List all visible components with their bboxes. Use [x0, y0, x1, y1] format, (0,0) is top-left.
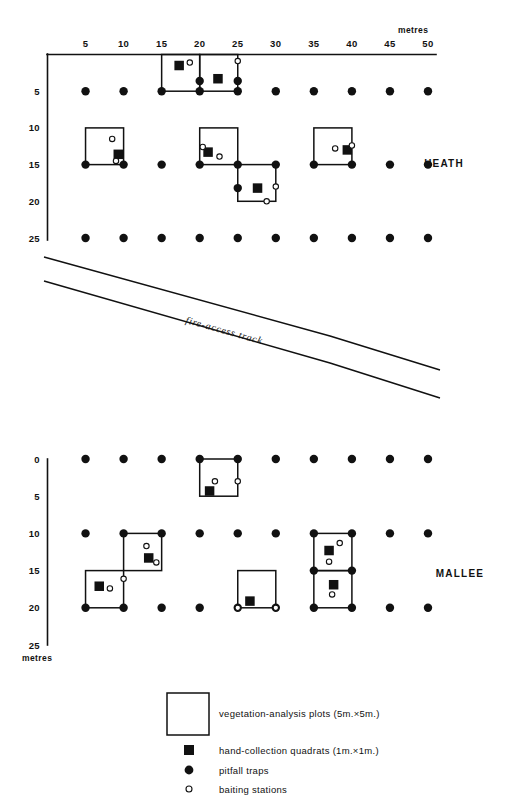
- pitfall-trap: [157, 604, 165, 612]
- baiting-station: [212, 479, 217, 484]
- heath-y-tick-20: 20: [29, 196, 40, 207]
- baiting-station: [349, 143, 354, 148]
- heath-y-tick-25: 25: [29, 233, 41, 244]
- vegetation-analysis-plot: [162, 55, 200, 92]
- heath-site-panel: 5101520253035404550 metres 510152025 HEA…: [29, 25, 464, 244]
- pitfall-trap: [272, 87, 280, 95]
- hand-collection-quadrat: [205, 486, 215, 496]
- legend-label-vegetation-plots: vegetation-analysis plots (5m.×5m.): [219, 708, 380, 719]
- track-label-text: fire-access track: [184, 314, 264, 346]
- baiting-station: [264, 199, 269, 204]
- pitfall-trap: [234, 234, 242, 242]
- baiting-station: [187, 60, 192, 65]
- pitfall-trap: [386, 160, 394, 168]
- pitfall-trap: [386, 529, 394, 537]
- pitfall-trap: [310, 455, 318, 463]
- pitfall-trap: [310, 87, 318, 95]
- x-axis-tick-30: 30: [270, 38, 281, 49]
- pitfall-trap: [310, 604, 318, 612]
- pitfall-trap: [157, 160, 165, 168]
- mallee-y-tick-0: 0: [34, 454, 40, 465]
- legend-baiting-station-swatch: [186, 786, 192, 792]
- baiting-station: [235, 479, 240, 484]
- x-axis-tick-35: 35: [308, 38, 320, 49]
- figure-root: 5101520253035404550 metres 510152025 HEA…: [0, 0, 508, 805]
- pitfall-trap: [310, 529, 318, 537]
- pitfall-trap: [310, 234, 318, 242]
- legend-vegetation-plot-swatch: [167, 693, 209, 735]
- fire-access-track: fire-access track: [44, 257, 440, 398]
- mallee-baiting-stations: [107, 479, 342, 611]
- pitfall-trap: [310, 566, 318, 574]
- baiting-station: [273, 184, 278, 189]
- baiting-station: [337, 540, 342, 545]
- hand-collection-quadrat: [144, 553, 154, 563]
- legend-label-pitfall-traps: pitfall traps: [219, 765, 269, 776]
- heath-hand-collection-quadrats: [114, 61, 353, 193]
- x-axis-tick-5: 5: [83, 38, 89, 49]
- hand-collection-quadrat: [174, 61, 184, 70]
- baiting-station: [121, 576, 126, 581]
- mallee-y-tick-15: 15: [29, 565, 41, 576]
- baiting-station: [332, 146, 337, 151]
- pitfall-trap: [157, 455, 165, 463]
- heath-y-tick-15: 15: [29, 159, 41, 170]
- vegetation-analysis-plot: [86, 571, 124, 608]
- pitfall-trap: [424, 87, 432, 95]
- x-axis-tick-50: 50: [422, 38, 433, 49]
- pitfall-trap: [157, 234, 165, 242]
- pitfall-trap: [348, 87, 356, 95]
- pitfall-trap: [234, 455, 242, 463]
- pitfall-trap: [234, 160, 242, 168]
- pitfall-trap: [272, 455, 280, 463]
- pitfall-trap: [81, 529, 89, 537]
- pitfall-trap: [196, 455, 204, 463]
- pitfall-trap: [81, 87, 89, 95]
- pitfall-trap: [81, 604, 89, 612]
- baiting-station: [154, 560, 159, 565]
- pitfall-trap: [234, 87, 242, 95]
- pitfall-trap: [196, 160, 204, 168]
- baiting-station: [144, 543, 149, 548]
- x-axis-tick-10: 10: [118, 38, 129, 49]
- baiting-station: [113, 158, 118, 163]
- mallee-site-label: MALLEE: [436, 568, 484, 579]
- x-axis-tick-15: 15: [156, 38, 168, 49]
- pitfall-trap: [272, 160, 280, 168]
- pitfall-trap: [348, 604, 356, 612]
- baiting-station: [217, 154, 222, 159]
- mallee-y-tick-10: 10: [29, 528, 40, 539]
- x-axis-tick-20: 20: [194, 38, 205, 49]
- pitfall-trap: [119, 529, 127, 537]
- x-axis-tick-40: 40: [346, 38, 357, 49]
- heath-pitfall-traps: [81, 77, 432, 242]
- hand-collection-quadrat: [245, 596, 255, 606]
- hand-collection-quadrat: [94, 581, 104, 591]
- pitfall-trap: [234, 529, 242, 537]
- baiting-station: [200, 144, 205, 149]
- pitfall-trap: [81, 234, 89, 242]
- heath-units-label: metres: [398, 25, 428, 35]
- pitfall-trap: [119, 455, 127, 463]
- pitfall-trap: [424, 604, 432, 612]
- baiting-station: [273, 605, 278, 610]
- pitfall-trap: [386, 455, 394, 463]
- hand-collection-quadrat: [114, 150, 124, 160]
- pitfall-trap: [386, 87, 394, 95]
- pitfall-trap: [348, 160, 356, 168]
- pitfall-trap: [272, 234, 280, 242]
- baiting-station: [235, 605, 240, 610]
- mallee-y-axis-tick-labels: 0510152025: [29, 454, 41, 651]
- pitfall-trap: [119, 604, 127, 612]
- pitfall-trap: [424, 234, 432, 242]
- mallee-y-tick-20: 20: [29, 602, 40, 613]
- legend-label-hand-collection-quadrats: hand-collection quadrats (1m.×1m.): [219, 745, 379, 756]
- legend-hand-collection-swatch: [184, 745, 194, 755]
- heath-y-axis-tick-labels: 510152025: [29, 86, 41, 244]
- pitfall-trap: [81, 455, 89, 463]
- baiting-station: [107, 586, 112, 591]
- baiting-station: [329, 592, 334, 597]
- legend-label-baiting-stations: baiting stations: [219, 784, 287, 795]
- pitfall-trap: [234, 77, 242, 85]
- vegetation-analysis-plot: [200, 55, 238, 92]
